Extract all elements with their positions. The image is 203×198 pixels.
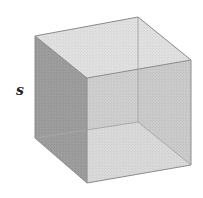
cube-svg [0,0,203,198]
cube-diagram: s [0,0,203,198]
side-length-label: s [16,83,24,97]
